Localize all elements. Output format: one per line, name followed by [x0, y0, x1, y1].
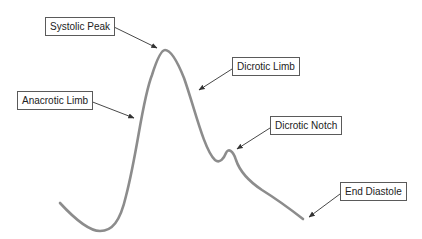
pressure-waveform-curve	[60, 50, 303, 231]
dicrotic-notch-arrow	[237, 128, 270, 149]
systolic-peak-arrow	[114, 27, 157, 48]
dicrotic-notch-label: Dicrotic Notch	[270, 116, 342, 135]
systolic-peak-label: Systolic Peak	[45, 17, 115, 36]
end-diastole-arrow	[309, 194, 340, 217]
anacrotic-limb-label: Anacrotic Limb	[17, 91, 93, 110]
dicrotic-limb-arrow	[199, 69, 232, 90]
end-diastole-label: End Diastole	[340, 182, 407, 201]
dicrotic-limb-label: Dicrotic Limb	[232, 57, 300, 76]
anacrotic-limb-arrow	[90, 101, 134, 118]
